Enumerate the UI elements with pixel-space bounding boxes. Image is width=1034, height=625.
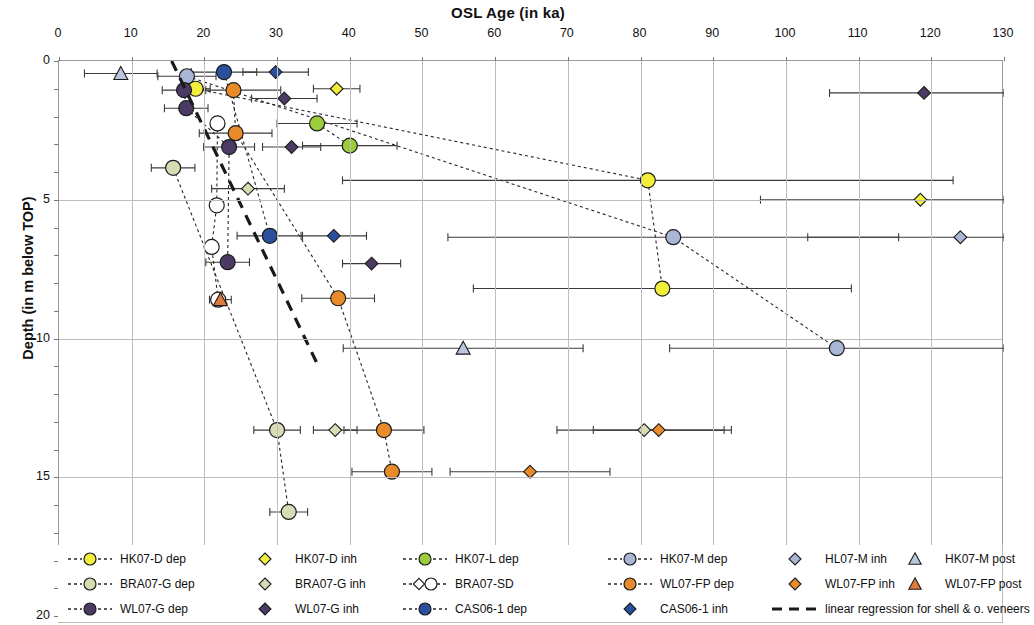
legend-item-label: BRA07-SD xyxy=(455,578,514,590)
x-tick-label: 60 xyxy=(487,26,501,40)
legend-marker-icon xyxy=(241,601,289,617)
x-tick-mark xyxy=(422,57,423,61)
legend-marker-icon xyxy=(891,576,939,592)
x-tick-label: 70 xyxy=(560,26,574,40)
legend-item-label: HK07-M post xyxy=(945,553,1015,565)
legend-marker-icon xyxy=(401,601,449,617)
legend-marker-icon xyxy=(606,601,654,617)
vertical-gridline xyxy=(713,61,714,614)
x-tick-mark xyxy=(1004,57,1005,61)
y-tick-mark xyxy=(54,450,59,451)
data-point-marker xyxy=(242,182,255,195)
x-tick-label: 30 xyxy=(269,26,283,40)
data-point-marker xyxy=(166,160,181,175)
legend-item[interactable]: HK07-L dep xyxy=(401,551,606,567)
data-point-marker xyxy=(217,65,232,80)
legend-item[interactable]: WL07-FP inh xyxy=(771,576,891,592)
error-bar xyxy=(808,233,1004,241)
plot-area xyxy=(58,60,1003,615)
data-point-marker xyxy=(204,239,219,254)
y-tick-mark xyxy=(54,61,59,62)
x-tick-mark xyxy=(204,57,205,61)
legend-item[interactable]: BRA07-SD xyxy=(401,576,606,592)
x-tick-label: 90 xyxy=(705,26,719,40)
legend-item[interactable]: CAS06-1 inh xyxy=(606,601,771,617)
y-axis-title: Depth (in m below TOP) xyxy=(20,188,36,368)
x-tick-mark xyxy=(132,57,133,61)
data-point-marker xyxy=(329,424,342,437)
x-tick-label: 40 xyxy=(342,26,356,40)
legend-marker-icon xyxy=(66,576,114,592)
x-tick-mark xyxy=(859,57,860,61)
legend-marker-icon xyxy=(771,551,819,567)
y-tick-mark xyxy=(54,394,59,395)
y-tick-mark xyxy=(54,117,59,118)
x-tick-mark xyxy=(277,57,278,61)
legend-item-label: linear regression for shell & o. veneers xyxy=(825,603,1030,615)
y-tick-mark xyxy=(54,228,59,229)
vertical-gridline xyxy=(132,61,133,614)
data-point-marker xyxy=(327,229,340,242)
legend-item[interactable]: WL07-FP post xyxy=(891,576,1034,592)
x-tick-mark xyxy=(568,57,569,61)
legend-item[interactable]: HK07-M post xyxy=(891,551,1034,567)
horizontal-gridline xyxy=(59,200,1002,201)
y-tick-label: 0 xyxy=(43,53,50,67)
y-tick-mark xyxy=(54,533,59,534)
x-tick-mark xyxy=(786,57,787,61)
x-tick-label: 20 xyxy=(196,26,210,40)
data-point-marker xyxy=(278,92,291,105)
data-point-marker xyxy=(285,141,298,154)
data-point-marker xyxy=(655,281,670,296)
x-tick-mark xyxy=(59,57,60,61)
data-point-marker xyxy=(228,126,243,141)
legend-item-label: WL07-FP post xyxy=(945,578,1021,590)
legend-item[interactable]: WL07-G inh xyxy=(241,601,401,617)
legend-item-label: WL07-FP inh xyxy=(825,578,895,590)
vertical-gridline xyxy=(204,61,205,614)
legend-item[interactable]: CAS06-1 dep xyxy=(401,601,606,617)
legend-item-label: HL07-M inh xyxy=(825,553,887,565)
y-tick-label: 5 xyxy=(43,192,50,206)
legend-marker-icon xyxy=(771,576,819,592)
x-tick-label: 10 xyxy=(124,26,138,40)
data-point-marker xyxy=(331,291,346,306)
data-point-marker xyxy=(226,83,241,98)
legend-item-label: BRA07-G dep xyxy=(120,578,195,590)
legend-item[interactable]: BRA07-G inh xyxy=(241,576,401,592)
legend-marker-icon xyxy=(241,576,289,592)
legend-item[interactable]: WL07-G dep xyxy=(66,601,241,617)
legend-item[interactable]: HK07-D inh xyxy=(241,551,401,567)
x-tick-label: 130 xyxy=(993,26,1014,40)
y-tick-mark xyxy=(54,505,59,506)
legend-item-label: CAS06-1 inh xyxy=(660,603,728,615)
data-point-marker xyxy=(829,341,844,356)
horizontal-gridline xyxy=(59,339,1002,340)
legend-item[interactable]: HK07-D dep xyxy=(66,551,241,567)
data-point-marker xyxy=(666,230,681,245)
legend-item[interactable]: WL07-FP dep xyxy=(606,576,771,592)
x-tick-mark xyxy=(931,57,932,61)
legend-marker-icon xyxy=(891,551,939,567)
x-tick-label: 0 xyxy=(55,26,62,40)
legend-item[interactable]: linear regression for shell & o. veneers xyxy=(771,601,891,617)
legend-item[interactable]: BRA07-G dep xyxy=(66,576,241,592)
data-point-marker xyxy=(269,66,282,79)
data-point-marker xyxy=(281,504,296,519)
data-point-marker xyxy=(262,228,277,243)
x-tick-label: 100 xyxy=(774,26,795,40)
x-tick-label: 110 xyxy=(848,26,868,40)
legend-marker-icon xyxy=(66,551,114,567)
y-tick-mark xyxy=(54,144,59,145)
x-tick-mark xyxy=(713,57,714,61)
data-point-marker xyxy=(954,231,967,244)
legend-item[interactable]: HL07-M inh xyxy=(771,551,891,567)
data-point-marker xyxy=(365,257,378,270)
legend-marker-icon xyxy=(771,601,819,617)
y-tick-mark xyxy=(54,366,59,367)
data-point-marker xyxy=(376,423,391,438)
legend-item[interactable]: HK07-M dep xyxy=(606,551,771,567)
series-connector-line xyxy=(173,168,289,512)
y-tick-mark xyxy=(54,200,59,201)
